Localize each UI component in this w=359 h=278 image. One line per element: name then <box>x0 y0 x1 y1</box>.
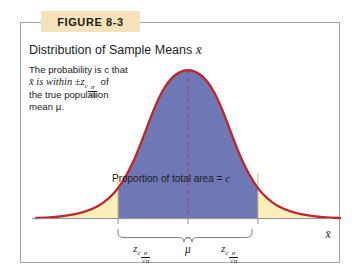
axis-label-right-interval: zcσ√n <box>206 243 254 265</box>
description-line-2: x̄ is within ±zcσ√n of <box>29 76 154 88</box>
z-critical-symbol: zc <box>81 76 88 87</box>
description-line-1: The probability is c that <box>29 64 154 76</box>
proportion-area-text: Proportion of total area = <box>112 173 225 184</box>
figure-title-text: Distribution of Sample Means <box>29 43 196 57</box>
proportion-area-value: c <box>225 172 230 184</box>
proportion-area-annotation: Proportion of total area = c <box>112 172 230 184</box>
description-line-2-suffix: of <box>101 76 109 87</box>
right-interval-fraction: σ√n <box>229 250 238 265</box>
figure-number-tab: FIGURE 8-3 <box>41 11 140 32</box>
axis-variable-symbol: x̄ <box>325 228 330 240</box>
figure-description: The probability is c that x̄ is within ±… <box>29 64 154 114</box>
figure-frame <box>20 22 340 263</box>
figure-title: Distribution of Sample Means x̄ <box>29 42 202 58</box>
mean-symbol: μ <box>185 243 191 255</box>
left-interval-z-symbol: zc <box>133 243 140 254</box>
axis-label-left-interval: zcσ√n <box>118 243 166 265</box>
axis-label-mean: μ <box>176 243 200 255</box>
figure-number-label: FIGURE 8-3 <box>57 16 124 28</box>
description-line-3: the true population <box>29 89 154 101</box>
figure-title-variable: x̄ <box>196 42 202 57</box>
right-interval-z-symbol: zc <box>221 243 228 254</box>
axis-label-variable: x̄ <box>320 228 336 240</box>
left-interval-fraction: σ√n <box>141 250 150 265</box>
description-line-4: mean μ. <box>29 101 154 113</box>
description-line-2-prefix: x̄ is within ± <box>29 76 81 87</box>
